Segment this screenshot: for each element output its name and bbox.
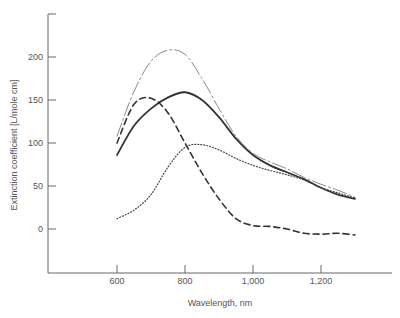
y-tick-label: 0 (38, 224, 43, 234)
y-tick-label: 200 (28, 52, 43, 62)
y-tick-label: 50 (33, 181, 43, 191)
series-solid-line (117, 92, 355, 199)
series-dotted-line (117, 144, 355, 218)
x-tick-label: 1,200 (310, 276, 333, 286)
chart: 0501001502006008001,0001,200 Wavelength,… (0, 0, 400, 318)
x-tick-label: 1,000 (242, 276, 265, 286)
series-group (117, 50, 355, 235)
axes: 0501001502006008001,0001,200 (28, 14, 392, 286)
x-axis-title: Wavelength, nm (188, 298, 253, 308)
series-dash-dot-line (117, 50, 355, 198)
y-tick-label: 100 (28, 138, 43, 148)
y-axis-title: Extinction coefficient [L/mole cm] (9, 80, 19, 211)
x-tick-label: 800 (177, 276, 192, 286)
x-tick-label: 600 (109, 276, 124, 286)
series-dashed-line (117, 98, 355, 235)
y-tick-label: 150 (28, 95, 43, 105)
